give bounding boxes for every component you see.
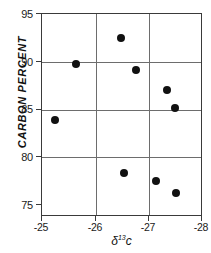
x-tick-label: -27 xyxy=(128,221,168,233)
y-tick-label: 75 xyxy=(3,199,33,211)
scatter-chart-figure: 95 90 85 80 75 -25 -26 -27 -28 CARBON PE… xyxy=(0,0,211,253)
plot-area xyxy=(41,13,202,216)
x-tick-label: -28 xyxy=(181,221,211,233)
y-axis-title: CARBON PERCENT xyxy=(16,32,28,152)
gridline-horizontal xyxy=(42,62,201,63)
gridline-vertical xyxy=(149,14,150,215)
data-point xyxy=(72,60,80,68)
x-tick-label: -26 xyxy=(75,221,115,233)
data-point xyxy=(117,34,125,42)
y-tick-label: 80 xyxy=(3,151,33,163)
data-point xyxy=(171,104,179,112)
data-point xyxy=(132,66,140,74)
data-point xyxy=(51,116,59,124)
gridline-horizontal xyxy=(42,157,201,158)
data-point xyxy=(163,86,171,94)
x-axis-title: δ13c xyxy=(41,234,202,248)
x-axis-title-superscript: 13 xyxy=(118,234,126,241)
data-point xyxy=(120,169,128,177)
y-tick-label: 95 xyxy=(3,8,33,20)
gridline-vertical xyxy=(96,14,97,215)
x-tick-label: -25 xyxy=(21,221,61,233)
data-point xyxy=(152,177,160,185)
x-axis-title-tail: c xyxy=(126,234,132,248)
data-point xyxy=(172,189,180,197)
x-axis-title-symbol: δ xyxy=(111,234,118,248)
